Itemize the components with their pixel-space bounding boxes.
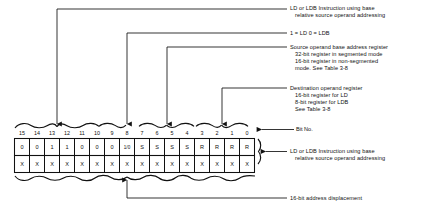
- bit-number-9: 9: [105, 130, 120, 136]
- annotation-destination-register: Destination operand register 16-bit regi…: [290, 85, 363, 113]
- annotation-source-register-line-1: Source operand base address register: [290, 44, 388, 51]
- annotation-opcode: LD or LDB Instruction using base relativ…: [290, 5, 385, 19]
- annotation-destination-register-line-2: 16-bit register for LD: [290, 92, 363, 99]
- annotation-word-group: LD or LDB Instruction using base relativ…: [290, 148, 385, 162]
- word1-cell-8: 1/0: [120, 144, 135, 152]
- bit-number-6: 6: [150, 130, 165, 136]
- word2-cell-8: X: [120, 160, 135, 168]
- bit-number-2: 2: [210, 130, 225, 136]
- annotation-destination-register-line-3: 8-bit register for LDB: [290, 99, 363, 106]
- word2-cell-13: X: [45, 160, 60, 168]
- word2-cell-6: X: [150, 160, 165, 168]
- word2-cell-12: X: [60, 160, 75, 168]
- annotation-word-group-line-1: LD or LDB Instruction using base: [290, 148, 385, 155]
- bit-number-15: 15: [15, 130, 30, 136]
- instruction-format-diagram: LD or LDB Instruction using base relativ…: [0, 0, 424, 215]
- word1-cell-2: R: [210, 143, 225, 151]
- bit-number-12: 12: [60, 130, 75, 136]
- annotation-displacement-line-1: 16-bit address displacement: [290, 195, 362, 202]
- word2-cell-14: X: [30, 160, 45, 168]
- word2-cell-10: X: [90, 160, 105, 168]
- word1-cell-7: S: [135, 143, 150, 151]
- leader-destination-register: [222, 88, 287, 124]
- brace-word-group: [258, 139, 261, 164]
- word1-cell-13: 1: [45, 143, 60, 151]
- annotation-size-bit-line-1: 1 = LD 0 = LDB: [290, 30, 330, 37]
- bit-number-4: 4: [180, 130, 195, 136]
- word1-cell-9: 0: [105, 143, 120, 151]
- bit-number-3: 3: [195, 130, 210, 136]
- bit-number-0: 0: [240, 130, 255, 136]
- leader-opcode: [57, 9, 287, 124]
- brace-destination-register: [196, 123, 248, 127]
- bit-number-14: 14: [30, 130, 45, 136]
- word2-cell-11: X: [75, 160, 90, 168]
- annotation-displacement: 16-bit address displacement: [290, 195, 362, 202]
- word1-cell-4: S: [180, 143, 195, 151]
- annotation-destination-register-line-1: Destination operand register: [290, 85, 363, 92]
- bit-no-label: Bit No.: [296, 126, 313, 133]
- word1-cell-0: R: [240, 143, 255, 151]
- bit-number-8: 8: [120, 130, 135, 136]
- bit-number-7: 7: [135, 130, 150, 136]
- bit-number-1: 1: [225, 130, 240, 136]
- annotation-destination-register-line-4: See Table 3-8: [290, 106, 363, 113]
- bit-number-13: 13: [45, 130, 60, 136]
- brace-source-register: [139, 123, 194, 127]
- word1-cell-6: S: [150, 143, 165, 151]
- word1-cell-3: R: [195, 143, 210, 151]
- word1-cell-1: R: [225, 143, 240, 151]
- annotation-source-register-line-3: 16-bit register in non-segmented: [290, 58, 388, 65]
- brace-opcode: [15, 123, 99, 128]
- bit-number-11: 11: [75, 130, 90, 136]
- annotation-word-group-line-2: relative source operand addressing: [290, 155, 385, 162]
- word2-cell-9: X: [105, 160, 120, 168]
- word2-cell-2: X: [210, 160, 225, 168]
- annotation-source-register: Source operand base address register 32-…: [290, 44, 388, 72]
- word1-cell-5: S: [165, 143, 180, 151]
- word1-cell-11: 0: [75, 143, 90, 151]
- word1-cell-15: 0: [15, 143, 30, 151]
- word1-cell-10: 0: [90, 143, 105, 151]
- annotation-opcode-line-2: relative source operand addressing: [290, 12, 385, 19]
- word2-cell-0: X: [240, 160, 255, 168]
- leader-source-register: [167, 47, 287, 124]
- word2-cell-4: X: [180, 160, 195, 168]
- leader-displacement: [127, 180, 287, 198]
- bit-number-10: 10: [90, 130, 105, 136]
- word1-cell-14: 0: [30, 143, 45, 151]
- word2-cell-3: X: [195, 160, 210, 168]
- word2-cell-15: X: [15, 160, 30, 168]
- annotation-opcode-line-1: LD or LDB Instruction using base: [290, 5, 385, 12]
- word2-cell-1: X: [225, 160, 240, 168]
- brace-size-bit: [99, 123, 126, 127]
- brace-displacement: [15, 175, 255, 180]
- word1-cell-12: 1: [60, 143, 75, 151]
- word2-cell-5: X: [165, 160, 180, 168]
- word2-cell-7: X: [135, 160, 150, 168]
- annotation-source-register-line-2: 32-bit register in segmented mode: [290, 51, 388, 58]
- annotation-source-register-line-4: mode. See Table 3-8: [290, 65, 388, 72]
- annotation-size-bit: 1 = LD 0 = LDB: [290, 30, 330, 37]
- bit-number-5: 5: [165, 130, 180, 136]
